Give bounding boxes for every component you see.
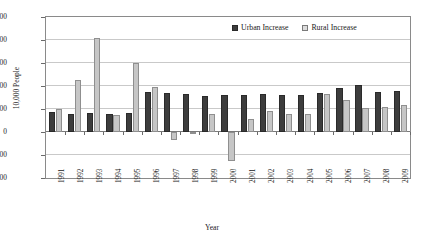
- x-tick-label: 1992: [78, 169, 85, 183]
- bar-rural: [305, 114, 311, 132]
- bar-urban: [279, 95, 285, 132]
- x-tick-label: 2005: [327, 169, 334, 183]
- legend-item-rural: Rural Increase: [302, 24, 356, 32]
- bar-rural: [228, 132, 234, 161]
- x-tick-mark: [391, 132, 392, 135]
- bar-rural: [209, 114, 215, 132]
- bar-group: [238, 17, 257, 178]
- bar-group: [257, 17, 276, 178]
- x-tick-mark: [410, 132, 411, 135]
- x-tick-label: 1997: [174, 169, 181, 183]
- bar-rural: [190, 132, 196, 134]
- bar-urban: [355, 85, 361, 132]
- bar-rural: [152, 87, 158, 132]
- y-tick-mark: [41, 178, 45, 179]
- bar-group: [372, 17, 391, 178]
- x-tick-mark: [123, 132, 124, 135]
- bar-rural: [343, 100, 349, 132]
- bar-urban: [260, 94, 266, 132]
- x-tick-label: 1995: [135, 169, 142, 183]
- bar-group: [65, 17, 84, 178]
- legend-swatch-urban-icon: [232, 25, 238, 31]
- bar-group: [314, 17, 333, 178]
- y-tick-mark: [41, 86, 45, 87]
- bar-rural: [382, 107, 388, 132]
- bar-rural: [133, 63, 139, 132]
- x-tick-mark: [276, 132, 277, 135]
- bar-rural: [324, 94, 330, 132]
- bar-urban: [202, 96, 208, 132]
- bar-urban: [145, 92, 151, 132]
- bar-urban: [183, 94, 189, 132]
- y-axis-label: 10,000 People: [13, 28, 21, 148]
- bar-urban: [221, 95, 227, 132]
- bar-group: [103, 17, 122, 178]
- bar-rural: [286, 114, 292, 132]
- x-tick-label: 2000: [231, 169, 238, 183]
- bar-urban: [241, 95, 247, 132]
- x-tick-mark: [353, 132, 354, 135]
- bar-urban: [317, 93, 323, 132]
- bar-group: [123, 17, 142, 178]
- x-tick-label: 2008: [384, 169, 391, 183]
- bar-series-container: [46, 17, 410, 178]
- bar-urban: [298, 95, 304, 132]
- bar-group: [161, 17, 180, 178]
- bar-urban: [49, 112, 55, 132]
- bar-group: [276, 17, 295, 178]
- bar-urban: [106, 114, 112, 132]
- legend-swatch-rural-icon: [302, 25, 308, 31]
- x-tick-mark: [142, 132, 143, 135]
- bar-urban: [375, 92, 381, 132]
- bar-rural: [113, 115, 119, 132]
- bar-group: [84, 17, 103, 178]
- y-tick-mark: [41, 63, 45, 64]
- bar-rural: [171, 132, 177, 140]
- bar-rural: [401, 105, 407, 132]
- y-tick-mark: [41, 109, 45, 110]
- y-tick-label: 0: [0, 128, 7, 135]
- bar-group: [199, 17, 218, 178]
- x-tick-label: 1996: [154, 169, 161, 183]
- bar-group: [180, 17, 199, 178]
- x-tick-mark: [314, 132, 315, 135]
- x-tick-mark: [333, 132, 334, 135]
- chart-legend: Urban Increase Rural Increase: [232, 24, 357, 32]
- bar-group: [218, 17, 237, 178]
- bar-group: [46, 17, 65, 178]
- x-tick-label: 2003: [288, 169, 295, 183]
- x-tick-label: 2004: [308, 169, 315, 183]
- x-tick-mark: [180, 132, 181, 135]
- x-tick-label: 2006: [346, 169, 353, 183]
- bar-rural: [56, 109, 62, 132]
- x-axis-label: Year: [0, 224, 424, 232]
- x-tick-label: 2001: [250, 169, 257, 183]
- x-tick-mark: [218, 132, 219, 135]
- y-tick-mark: [41, 40, 45, 41]
- bar-rural: [362, 108, 368, 132]
- bar-chart: 10,000 People 25002000150010005000-500-1…: [0, 0, 424, 236]
- y-tick-label: 500: [0, 105, 7, 112]
- y-tick-mark: [41, 155, 45, 156]
- y-tick-label: 2000: [0, 36, 7, 43]
- bar-group: [333, 17, 352, 178]
- x-tick-mark: [372, 132, 373, 135]
- bar-group: [142, 17, 161, 178]
- y-tick-label: -500: [0, 151, 7, 158]
- x-tick-label: 1998: [193, 169, 200, 183]
- x-tick-label: 1999: [212, 169, 219, 183]
- x-tick-label: 2002: [269, 169, 276, 183]
- bar-group: [391, 17, 410, 178]
- x-tick-mark: [257, 132, 258, 135]
- bar-urban: [336, 88, 342, 132]
- x-tick-mark: [103, 132, 104, 135]
- legend-label-rural: Rural Increase: [311, 24, 356, 32]
- y-tick-label: 1000: [0, 82, 7, 89]
- bar-urban: [68, 114, 74, 132]
- bar-group: [353, 17, 372, 178]
- bar-rural: [75, 80, 81, 132]
- x-tick-mark: [84, 132, 85, 135]
- bar-group: [295, 17, 314, 178]
- x-tick-label: 1993: [97, 169, 104, 183]
- x-tick-label: 2009: [403, 169, 410, 183]
